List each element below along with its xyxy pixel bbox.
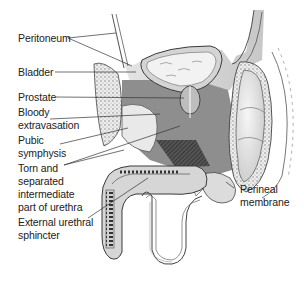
label-torn-urethra-line2: separated: [18, 175, 64, 188]
scrotum: [142, 192, 202, 264]
rectum: [229, 48, 293, 198]
label-perineal-membrane-line2: membrane: [240, 196, 289, 209]
label-torn-urethra-line1: Torn and: [18, 162, 58, 175]
label-prostate: Prostate: [18, 91, 56, 104]
leader-peritoneum-1: [68, 33, 116, 38]
penis: [102, 166, 207, 259]
label-torn-urethra-line4: part of urethra: [18, 201, 82, 214]
label-external-sphincter-line2: sphincter: [18, 229, 60, 242]
leader-torn-urethra-2: [64, 150, 124, 165]
anatomy-diagram: Peritoneum Bladder Prostate Bloody extra…: [0, 0, 304, 289]
label-bloody-extravasation-line1: Bloody: [18, 106, 50, 119]
label-bloody-extravasation-line2: extravasation: [18, 119, 79, 132]
pubic-bone: [94, 63, 122, 146]
label-external-sphincter-line1: External urethral: [18, 216, 93, 229]
label-peritoneum: Peritoneum: [18, 32, 71, 45]
label-perineal-membrane-line1: Perineal: [240, 183, 278, 196]
label-pubic-symphysis-line1: Pubic: [18, 134, 44, 147]
label-pubic-symphysis-line2: symphysis: [18, 147, 66, 160]
label-torn-urethra-line3: intermediate: [18, 188, 75, 201]
label-bladder: Bladder: [18, 66, 54, 79]
